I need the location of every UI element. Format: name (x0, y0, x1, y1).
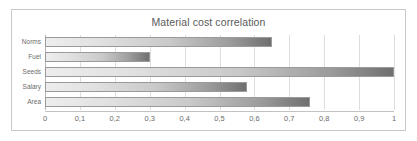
gridline (394, 35, 395, 110)
bar-row: Area (45, 95, 394, 110)
plot-area: NormsFuelSeedsSalaryArea (45, 35, 394, 110)
y-axis-label: Seeds (23, 65, 41, 79)
x-axis-tick-label: 0 (43, 114, 47, 123)
x-axis-tick-label: 0,7 (284, 114, 294, 123)
chart-title: Material cost correlation (12, 16, 405, 28)
x-axis-tick-label: 1 (392, 114, 396, 123)
bar-row: Norms (45, 35, 394, 50)
x-axis-tick-label: 0,4 (179, 114, 189, 123)
bar (45, 82, 247, 92)
x-axis-tick-label: 0,8 (319, 114, 329, 123)
chart-container: Material cost correlation NormsFuelSeeds… (11, 9, 406, 131)
bar (45, 52, 150, 62)
y-axis-label: Salary (23, 80, 41, 94)
x-axis-tick-label: 0,3 (144, 114, 154, 123)
y-axis-label: Area (27, 95, 41, 109)
x-axis-tick-label: 0,5 (214, 114, 224, 123)
y-axis-label: Fuel (28, 50, 41, 64)
x-axis-line (45, 111, 394, 112)
x-axis-tick-label: 0,9 (354, 114, 364, 123)
x-axis-tick-label: 0,6 (249, 114, 259, 123)
bar (45, 97, 310, 107)
bar-row: Fuel (45, 50, 394, 65)
bar-row: Salary (45, 80, 394, 95)
bar-series: NormsFuelSeedsSalaryArea (45, 35, 394, 110)
x-axis: 00,10,20,30,40,50,60,70,80,91 (45, 111, 394, 127)
bar-row: Seeds (45, 65, 394, 80)
bar (45, 37, 272, 47)
x-axis-tick-label: 0,1 (75, 114, 85, 123)
y-axis-label: Norms (22, 35, 41, 49)
bar (45, 67, 394, 77)
x-axis-tick-label: 0,2 (110, 114, 120, 123)
